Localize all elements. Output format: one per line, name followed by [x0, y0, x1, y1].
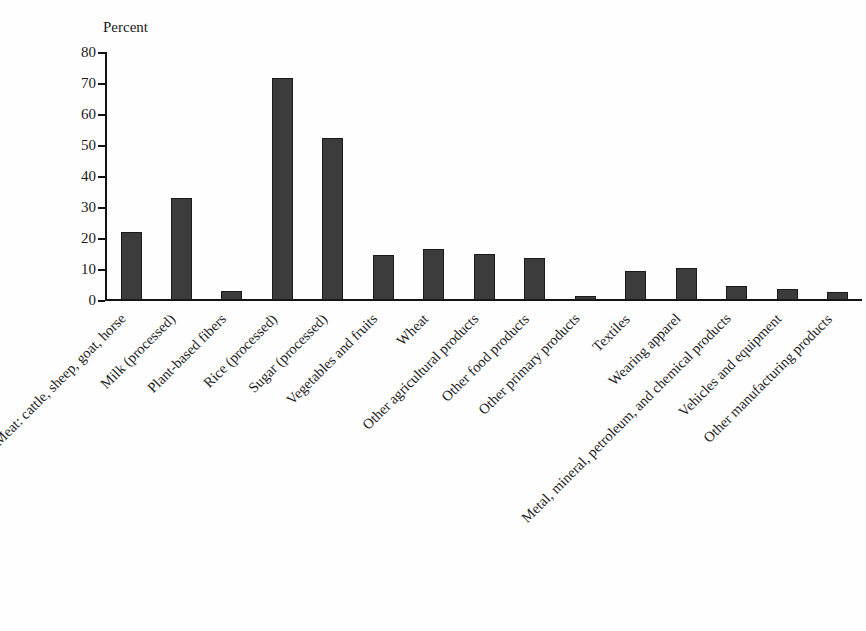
y-tick-mark	[98, 52, 105, 54]
bar	[322, 138, 343, 300]
y-tick-mark	[98, 269, 105, 271]
y-tick-label: 50	[81, 138, 96, 153]
x-axis-label: Vegetables and fruits	[284, 311, 380, 407]
bar-chart: Percent 01020304050607080 Meat: cattle, …	[0, 0, 866, 631]
bar	[171, 198, 192, 300]
bar	[272, 78, 293, 300]
y-tick-label: 60	[81, 107, 96, 122]
bar	[373, 255, 394, 300]
y-tick-label: 20	[81, 231, 96, 246]
plot-area: 01020304050607080	[105, 52, 862, 300]
bar	[474, 254, 495, 300]
bar	[777, 289, 798, 300]
y-tick-mark	[98, 145, 105, 147]
bar	[726, 286, 747, 300]
bar	[524, 258, 545, 300]
x-axis-label: Wheat	[394, 311, 431, 348]
bar	[221, 291, 242, 300]
y-tick-mark	[98, 176, 105, 178]
x-axis-label: Other primary products	[476, 311, 582, 417]
y-tick-label: 40	[81, 169, 96, 184]
bar	[625, 271, 646, 300]
bar	[423, 249, 444, 300]
y-tick-label: 80	[81, 45, 96, 60]
y-tick-mark	[98, 83, 105, 85]
y-tick-label: 70	[81, 76, 96, 91]
y-tick-label: 0	[89, 293, 97, 308]
x-axis-label: Other food products	[439, 311, 532, 404]
bar	[676, 268, 697, 300]
y-tick-label: 30	[81, 200, 96, 215]
x-axis-label: Textiles	[590, 311, 633, 354]
y-tick-mark	[98, 207, 105, 209]
bar	[827, 292, 848, 300]
y-tick-mark	[98, 114, 105, 116]
y-tick-mark	[98, 238, 105, 240]
bar	[575, 296, 596, 300]
y-tick-mark	[98, 300, 105, 302]
bar	[121, 232, 142, 300]
y-tick-label: 10	[81, 262, 96, 277]
y-axis-title: Percent	[103, 20, 148, 35]
